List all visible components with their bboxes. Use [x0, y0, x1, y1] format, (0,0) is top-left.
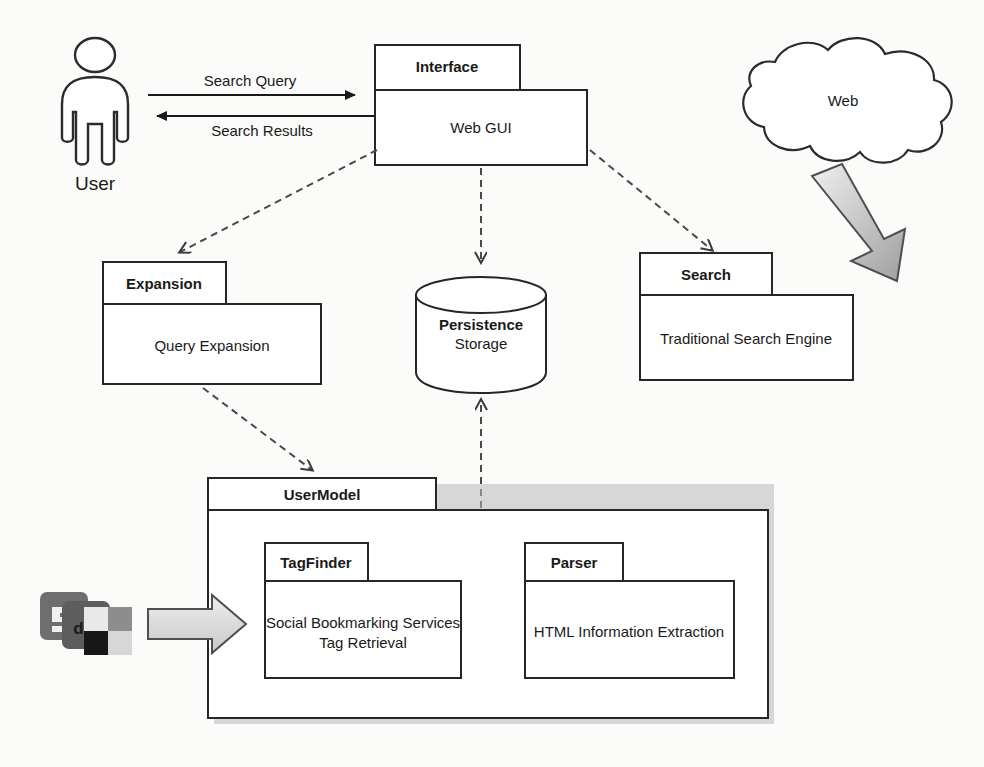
tagfinder-body-line2: Tag Retrieval [319, 634, 407, 651]
tagfinder-body-line1: Social Bookmarking Services [266, 614, 460, 631]
flow-search-results: Search Results [157, 116, 375, 139]
flow-label-search-results: Search Results [211, 122, 313, 139]
delicious-icon [84, 607, 132, 655]
search-body-label: Traditional Search Engine [660, 330, 832, 347]
interface-body-label: Web GUI [450, 119, 511, 136]
expansion-body-label: Query Expansion [154, 337, 269, 354]
actor-user: User [62, 38, 128, 194]
package-usermodel[interactable]: UserModel TagFinder Social Bookmarking S… [208, 478, 774, 724]
dep-interface-search [590, 150, 712, 250]
web-to-search-arrow [812, 164, 905, 281]
expansion-tab-label: Expansion [126, 275, 202, 292]
actor-label: User [75, 173, 116, 194]
flow-label-search-query: Search Query [204, 72, 297, 89]
package-interface[interactable]: Interface Web GUI [375, 45, 587, 165]
search-tab-label: Search [681, 266, 731, 283]
persistence-subtitle: Storage [455, 335, 508, 352]
cloud-web: Web [743, 38, 951, 163]
interface-tab-label: Interface [416, 58, 479, 75]
person-icon [62, 38, 128, 165]
package-search[interactable]: Search Traditional Search Engine [640, 253, 853, 380]
parser-tab-label: Parser [551, 554, 598, 571]
parser-body-label: HTML Information Extraction [534, 623, 724, 640]
cloud-label: Web [828, 92, 859, 109]
datastore-persistence[interactable]: Persistence Storage [416, 277, 546, 393]
dep-expansion-usermodel [203, 388, 312, 470]
dep-interface-expansion [180, 150, 377, 252]
social-bookmarking-icons: dig [40, 592, 132, 655]
package-expansion[interactable]: Expansion Query Expansion [103, 262, 321, 384]
flow-search-query: Search Query [148, 72, 355, 95]
usermodel-tab-label: UserModel [284, 486, 361, 503]
persistence-title: Persistence [439, 316, 523, 333]
diagram-canvas: User Search Query Search Results Interfa… [0, 0, 984, 767]
tagfinder-tab-label: TagFinder [280, 554, 352, 571]
